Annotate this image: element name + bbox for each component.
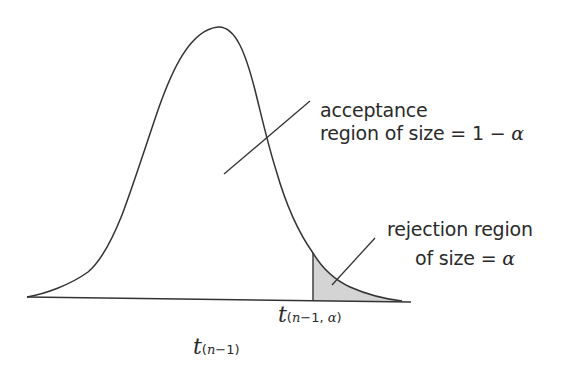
rejection-region-fill: [313, 253, 402, 301]
alpha-symbol: α: [328, 310, 337, 325]
acceptance-leader-line: [224, 101, 310, 174]
rejection-label-line1: rejection region: [387, 220, 533, 239]
rejection-size-text: of size =: [415, 247, 502, 269]
subscript-text: −1): [215, 342, 239, 357]
acceptance-label-line2: region of size = 1 − α: [320, 124, 524, 143]
density-curve: [27, 27, 402, 301]
acceptance-size-text: region of size = 1 −: [320, 122, 511, 144]
t-symbol: t: [278, 302, 287, 327]
rejection-text: rejection region: [387, 218, 533, 240]
critical-value-label: t(n−1, α): [278, 304, 342, 326]
alpha-symbol: α: [502, 247, 515, 269]
distribution-label: t(n−1): [193, 336, 240, 358]
rejection-leader-line: [332, 238, 375, 285]
alpha-symbol: α: [511, 122, 524, 144]
t-symbol: t: [193, 334, 202, 359]
rejection-label-line2: of size = α: [415, 249, 515, 268]
acceptance-text: acceptance: [320, 99, 428, 121]
subscript-text: −1,: [300, 310, 327, 325]
paren: ): [337, 310, 342, 325]
acceptance-label-line1: acceptance: [320, 101, 428, 120]
t-distribution-figure: acceptance region of size = 1 − α reject…: [0, 0, 585, 378]
